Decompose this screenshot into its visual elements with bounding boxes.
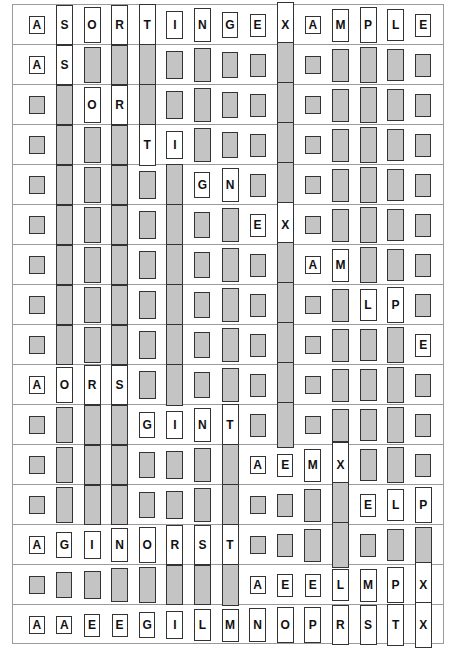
- key-box-inactive: [360, 247, 377, 284]
- key-box-inactive: [415, 174, 431, 197]
- key-box-inactive: [332, 89, 349, 122]
- key-box-inactive: [111, 568, 128, 602]
- key-box-inactive: [387, 169, 404, 201]
- key-box-inactive: [29, 336, 45, 354]
- key-box-inactive: [166, 491, 183, 519]
- key-box-inactive: [360, 47, 377, 84]
- key-box-inactive: [250, 294, 266, 317]
- key-box-active: S: [56, 5, 73, 46]
- key-box-inactive: [332, 209, 349, 242]
- key-box-active: R: [111, 85, 128, 124]
- key-box-inactive: [194, 448, 211, 482]
- key-box-inactive: [139, 44, 156, 86]
- key-box-inactive: [84, 247, 101, 283]
- key-box-inactive: [56, 325, 73, 366]
- key-box-inactive: [194, 292, 210, 318]
- key-box-inactive: [305, 56, 321, 74]
- key-box-active: A: [56, 616, 72, 634]
- key-box-inactive: [387, 89, 404, 121]
- key-box-inactive: [250, 414, 266, 437]
- key-box-inactive: [111, 125, 128, 164]
- key-box-inactive: [332, 289, 349, 322]
- key-box-inactive: [387, 49, 404, 81]
- key-box-inactive: [305, 96, 321, 114]
- key-box-inactive: [222, 208, 239, 242]
- key-box-inactive: [387, 327, 404, 364]
- key-box-inactive: [277, 534, 293, 557]
- key-box-inactive: [222, 368, 239, 402]
- mergesort-diagram: ASORTINGEXAMPLEASORTIGNEXAMLPEAORSGINTAE…: [12, 4, 444, 644]
- key-box-active: M: [304, 449, 321, 482]
- key-box-active: I: [84, 531, 101, 559]
- key-box-active: P: [360, 7, 377, 44]
- key-box-inactive: [387, 209, 404, 241]
- key-box-inactive: [84, 405, 101, 444]
- key-box-active: I: [166, 411, 183, 439]
- key-box-inactive: [332, 522, 349, 569]
- key-box-inactive: [360, 207, 377, 244]
- key-box-active: L: [360, 289, 377, 321]
- key-box-inactive: [166, 324, 183, 366]
- key-box-inactive: [84, 327, 101, 363]
- diagram-row: AGINORST: [13, 525, 443, 565]
- key-box-active: E: [112, 614, 128, 637]
- key-box-inactive: [29, 496, 45, 514]
- key-box-inactive: [56, 245, 73, 286]
- key-box-inactive: [111, 405, 128, 446]
- key-box-inactive: [166, 284, 183, 326]
- key-box-inactive: [139, 492, 155, 518]
- key-box-inactive: [305, 296, 321, 314]
- key-box-active: G: [139, 612, 155, 638]
- key-box-inactive: [194, 128, 211, 162]
- key-box-inactive: [387, 447, 404, 484]
- key-box-inactive: [84, 127, 101, 163]
- key-box-inactive: [277, 494, 293, 517]
- key-box-active: E: [250, 14, 266, 37]
- key-box-inactive: [415, 254, 431, 277]
- key-box-inactive: [111, 485, 128, 526]
- diagram-row: OR: [13, 85, 443, 125]
- diagram-row: TI: [13, 125, 443, 165]
- key-box-inactive: [29, 216, 45, 234]
- key-box-active: L: [387, 9, 404, 41]
- key-box-inactive: [84, 571, 101, 599]
- key-box-inactive: [360, 534, 376, 557]
- key-box-active: A: [29, 56, 45, 74]
- key-box-active: G: [194, 172, 210, 198]
- key-box-active: N: [194, 8, 211, 42]
- key-box-inactive: [166, 91, 183, 119]
- key-box-inactive: [277, 402, 294, 449]
- key-box-inactive: [250, 94, 266, 117]
- key-box-inactive: [222, 132, 238, 158]
- key-box-active: P: [387, 287, 404, 324]
- key-box-active: A: [29, 376, 45, 394]
- key-box-inactive: [111, 325, 128, 364]
- key-box-active: N: [222, 168, 239, 202]
- key-box-inactive: [194, 488, 211, 522]
- key-box-inactive: [305, 216, 321, 234]
- key-box-inactive: [194, 88, 211, 122]
- key-box-inactive: [29, 576, 45, 594]
- key-box-active: T: [222, 524, 239, 566]
- key-box-inactive: [56, 407, 73, 443]
- key-box-inactive: [305, 416, 321, 434]
- key-box-active: N: [194, 408, 211, 442]
- key-box-active: S: [111, 365, 128, 406]
- key-box-inactive: [332, 329, 349, 362]
- key-box-inactive: [166, 244, 183, 286]
- key-box-active: O: [84, 7, 101, 43]
- key-box-inactive: [84, 485, 101, 524]
- key-box-inactive: [56, 205, 73, 246]
- key-box-active: O: [84, 87, 101, 123]
- diagram-row: EX: [13, 205, 443, 245]
- key-box-inactive: [166, 451, 183, 479]
- diagram-row: AAEEGILMNOPRSTX: [13, 605, 443, 645]
- key-box-inactive: [305, 176, 321, 194]
- key-box-inactive: [139, 251, 156, 279]
- key-box-inactive: [139, 171, 156, 199]
- diagram-row: AORS: [13, 365, 443, 405]
- key-box-inactive: [222, 328, 239, 362]
- key-box-inactive: [166, 204, 183, 246]
- key-box-inactive: [29, 456, 45, 474]
- key-box-inactive: [250, 134, 266, 157]
